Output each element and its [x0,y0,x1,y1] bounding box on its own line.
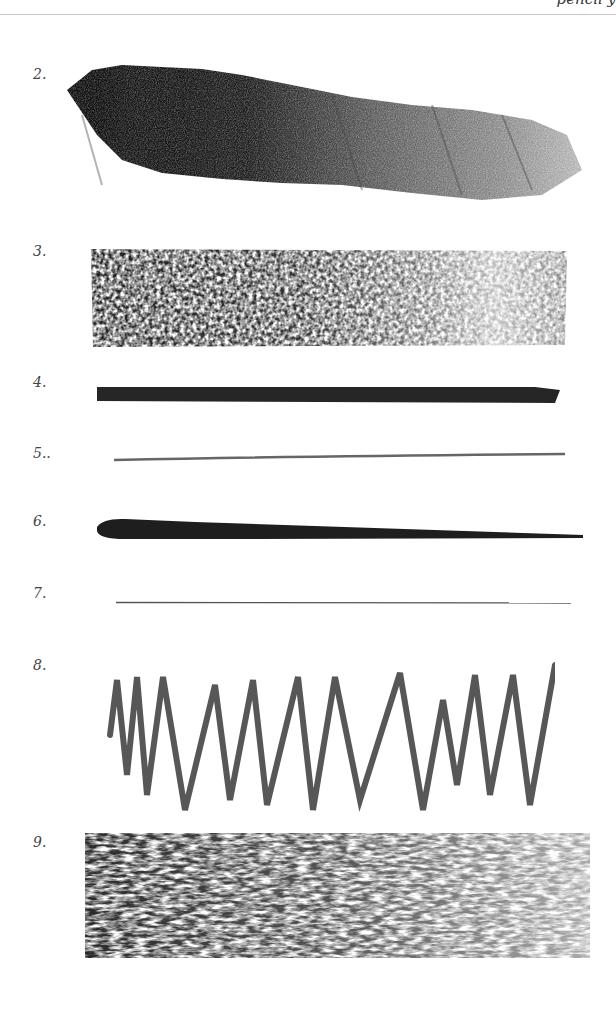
sample-label-2: 2. [33,66,46,82]
sample-stroke-2 [62,55,587,215]
sample-label-3: 3. [33,243,46,259]
sample-label-9: 9. [33,834,46,850]
sample-stroke-4 [95,384,565,406]
sample-stroke-9 [85,828,590,968]
sample-label-7: 7. [33,585,46,601]
sample-label-4: 4. [33,374,46,390]
sample-stroke-6 [95,517,585,543]
sample-label-8: 8. [33,657,46,673]
running-head: pencil y [557,0,616,8]
sample-stroke-8 [105,655,555,815]
sample-stroke-5 [113,452,568,464]
sample-stroke-7 [115,600,573,606]
sample-label-5: 5.. [33,445,51,461]
sample-stroke-3 [89,245,569,349]
header-rule [0,14,616,15]
sample-label-6: 6. [33,513,46,529]
